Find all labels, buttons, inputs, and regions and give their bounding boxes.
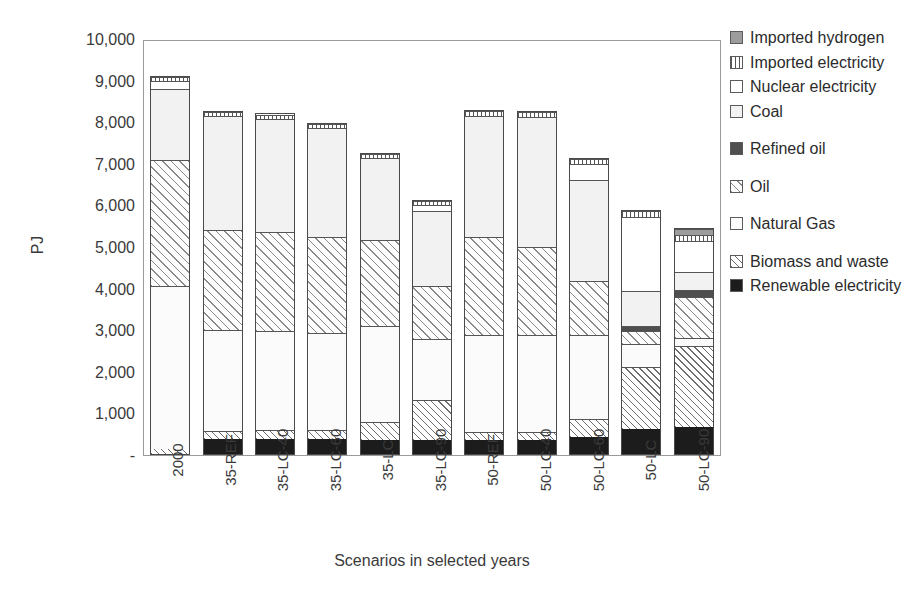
y-tick-label: - <box>57 448 143 464</box>
stacked-bar[interactable] <box>569 158 609 455</box>
bar-segment <box>413 211 451 287</box>
legend-spacer <box>730 198 905 214</box>
legend-item[interactable]: Imported hydrogen <box>730 28 905 48</box>
bar-segment <box>361 158 399 240</box>
bar-segment <box>570 335 608 419</box>
bar-column[interactable] <box>569 41 609 455</box>
x-tick-column: 35-LC-60 <box>307 458 347 550</box>
x-tick-label: 35-REF <box>222 434 239 486</box>
bar-segment <box>570 180 608 281</box>
bar-segment <box>518 247 556 335</box>
legend-swatch-icon <box>730 279 743 292</box>
y-tick-label: 6,000 <box>57 198 143 214</box>
bar-column[interactable] <box>464 41 504 455</box>
chart-legend: Imported hydrogenImported electricityNuc… <box>730 28 905 301</box>
bar-segment <box>151 286 189 450</box>
legend-item[interactable]: Imported electricity <box>730 53 905 73</box>
x-tick-column: 50-LC-60 <box>570 458 610 550</box>
legend-spacer <box>730 123 905 139</box>
x-tick-column: 50-LC-40 <box>517 458 557 550</box>
bar-segment <box>151 89 189 160</box>
legend-item[interactable]: Renewable electricity <box>730 276 905 296</box>
legend-swatch-icon <box>730 31 743 44</box>
bar-column[interactable] <box>203 41 243 455</box>
x-tick-label: 50-REF <box>484 434 501 486</box>
x-tick-column: 50-LC-90 <box>675 458 715 550</box>
y-tick-label: 10,000 <box>57 32 143 48</box>
y-tick-label: 3,000 <box>57 323 143 339</box>
legend-item[interactable]: Coal <box>730 102 905 122</box>
bar-segment <box>256 331 294 430</box>
y-tick-label: 2,000 <box>57 365 143 381</box>
x-tick-column: 2000 <box>149 458 189 550</box>
bar-segment <box>622 217 660 291</box>
legend-label: Imported hydrogen <box>750 28 884 48</box>
legend-label: Oil <box>750 177 770 197</box>
stacked-bar-chart: PJ 10,0009,0008,0007,0006,0005,0004,0003… <box>0 0 909 596</box>
legend-item[interactable]: Biomass and waste <box>730 252 905 272</box>
legend-spacer <box>730 236 905 252</box>
bar-segment <box>622 331 660 344</box>
stacked-bar[interactable] <box>517 111 557 455</box>
bar-column[interactable] <box>517 41 557 455</box>
legend-label: Imported electricity <box>750 53 884 73</box>
bar-column[interactable] <box>150 41 190 455</box>
legend-item[interactable]: Natural Gas <box>730 214 905 234</box>
x-tick-column: 35-LC-40 <box>254 458 294 550</box>
x-tick-label: 50-LC-60 <box>590 429 607 492</box>
x-tick-label: 35-LC-60 <box>327 429 344 492</box>
y-tick-label: 7,000 <box>57 157 143 173</box>
bar-segment <box>518 117 556 247</box>
x-tick-label: 35-LC <box>379 440 396 481</box>
stacked-bar[interactable] <box>150 76 190 455</box>
y-tick-label: 1,000 <box>57 406 143 422</box>
bar-column[interactable] <box>621 41 661 455</box>
stacked-bar[interactable] <box>203 111 243 455</box>
bar-column[interactable] <box>255 41 295 455</box>
x-tick-column: 50-REF <box>464 458 504 550</box>
legend-swatch-icon <box>730 105 743 118</box>
y-tick-label: 8,000 <box>57 115 143 131</box>
x-tick-label: 50-LC-40 <box>537 429 554 492</box>
legend-label: Biomass and waste <box>750 252 889 272</box>
legend-item[interactable]: Oil <box>730 177 905 197</box>
bar-segment <box>675 297 713 338</box>
stacked-bar[interactable] <box>255 113 295 455</box>
plot-area <box>143 40 721 456</box>
bar-column[interactable] <box>307 41 347 455</box>
legend-label: Renewable electricity <box>750 276 901 296</box>
bar-segment <box>308 333 346 431</box>
stacked-bar[interactable] <box>621 210 661 455</box>
bar-segment <box>465 116 503 238</box>
legend-swatch-icon <box>730 142 743 155</box>
bar-segment <box>204 230 242 330</box>
bar-column[interactable] <box>674 41 714 455</box>
stacked-bar[interactable] <box>360 153 400 455</box>
bar-segment <box>361 326 399 422</box>
legend-spacer <box>730 298 905 301</box>
bar-segment <box>361 240 399 326</box>
legend-item[interactable]: Nuclear electricity <box>730 77 905 97</box>
y-axis-tick-labels: 10,0009,0008,0007,0006,0005,0004,0003,00… <box>44 0 143 596</box>
stacked-bar[interactable] <box>307 123 347 455</box>
bar-group <box>144 41 720 455</box>
bar-column[interactable] <box>412 41 452 455</box>
bar-segment <box>413 339 451 400</box>
stacked-bar[interactable] <box>674 228 714 455</box>
bar-segment <box>675 241 713 272</box>
x-tick-column: 50-LC <box>622 458 662 550</box>
legend-swatch-icon <box>730 180 743 193</box>
bar-column[interactable] <box>360 41 400 455</box>
x-tick-label: 50-LC-90 <box>695 429 712 492</box>
bar-segment <box>308 128 346 236</box>
bar-segment <box>622 344 660 367</box>
y-tick-label: 4,000 <box>57 282 143 298</box>
stacked-bar[interactable] <box>464 110 504 455</box>
bar-segment <box>675 290 713 297</box>
legend-item[interactable]: Refined oil <box>730 139 905 159</box>
stacked-bar[interactable] <box>412 200 452 455</box>
x-axis-title: Scenarios in selected years <box>143 552 721 570</box>
x-tick-label: 35-LC-40 <box>274 429 291 492</box>
bar-segment <box>570 164 608 181</box>
bar-segment <box>518 335 556 431</box>
